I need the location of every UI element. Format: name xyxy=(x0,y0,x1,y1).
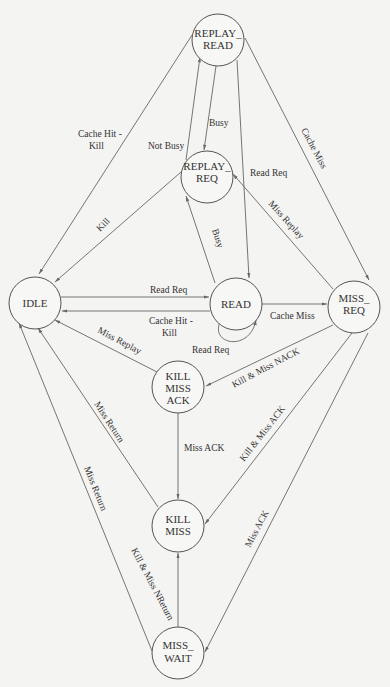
state-miss-wait: MISS_ WAIT xyxy=(152,627,204,679)
label-rr-idle-1: Cache Hit - xyxy=(78,129,122,139)
svg-text:MISS_: MISS_ xyxy=(162,639,194,651)
label-read-idle-1: Cache Hit - xyxy=(149,316,193,326)
state-read: READ xyxy=(210,278,262,330)
edge-replay-read-to-replay-req xyxy=(204,66,216,150)
label-read-rq: Busy xyxy=(210,228,226,250)
edge-replay-read-to-read xyxy=(237,60,249,278)
svg-text:ACK: ACK xyxy=(166,394,189,406)
svg-text:READ: READ xyxy=(221,298,251,310)
state-replay-read: REPLAY_ READ xyxy=(192,14,244,66)
edge-miss-req-to-kill-miss-ack xyxy=(206,325,333,386)
label-mreq-kma: Kill & Miss NACK xyxy=(230,346,301,390)
svg-text:REPLAY_: REPLAY_ xyxy=(194,27,242,39)
svg-text:IDLE: IDLE xyxy=(22,297,47,309)
svg-text:REQ: REQ xyxy=(196,172,218,184)
svg-text:REQ: REQ xyxy=(343,304,365,316)
state-idle: IDLE xyxy=(9,277,61,329)
svg-text:MISS_: MISS_ xyxy=(338,292,370,304)
state-kill-miss-ack: KILL MISS ACK xyxy=(152,361,204,413)
label-kma-km: Miss ACK xyxy=(184,443,225,453)
state-replay-req: REPLAY_ REQ xyxy=(181,151,233,203)
label-read-mreq: Cache Miss xyxy=(270,311,315,321)
svg-text:KILL: KILL xyxy=(165,370,190,382)
label-rr-idle-2: Kill xyxy=(89,141,104,151)
label-rr-mreq: Cache Miss xyxy=(299,126,329,170)
edge-replay-read-to-idle xyxy=(39,35,192,274)
state-kill-miss: KILL MISS xyxy=(152,500,204,552)
label-rr-read: Read Req xyxy=(250,168,287,178)
label-read-idle-2: Kill xyxy=(162,328,177,338)
edge-miss-req-to-replay-req xyxy=(233,174,333,289)
edge-miss-wait-to-idle xyxy=(19,323,152,651)
label-mreq-mw: Miss ACK xyxy=(243,508,271,548)
svg-text:KILL: KILL xyxy=(165,513,190,525)
label-rq-idle: Kill xyxy=(94,216,112,234)
label-kma-idle: Miss Replay xyxy=(96,325,143,356)
edge-replay-req-to-replay-read xyxy=(186,57,200,160)
edge-replay-req-to-idle xyxy=(55,172,181,282)
label-km-idle: Miss Return xyxy=(92,400,126,445)
label-mreq-km: Kill & Miss ACK xyxy=(238,404,287,463)
svg-text:READ: READ xyxy=(203,39,233,51)
state-miss-req: MISS_ REQ xyxy=(328,281,380,333)
svg-text:WAIT: WAIT xyxy=(164,652,192,664)
svg-text:MISS: MISS xyxy=(165,525,191,537)
label-read-self: Read Req xyxy=(192,345,229,355)
label-rr-rq: Busy xyxy=(209,118,229,128)
edge-read-to-replay-req xyxy=(186,196,215,283)
svg-text:REPLAY_: REPLAY_ xyxy=(183,160,231,172)
label-mw-km: Kill & Miss NReturn xyxy=(129,546,176,622)
svg-text:MISS: MISS xyxy=(165,382,191,394)
label-rq-rr: Not Busy xyxy=(148,141,184,151)
edge-replay-read-to-miss-req xyxy=(245,38,369,280)
state-diagram: Cache Hit - Kill Busy Not Busy Read Req … xyxy=(0,0,390,687)
label-idle-read: Read Req xyxy=(150,285,187,295)
